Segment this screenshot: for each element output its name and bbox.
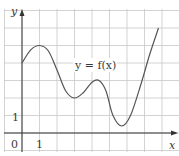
y-axis-arrow-icon <box>20 9 25 16</box>
x-axis-label: x <box>169 139 176 152</box>
grid-lines <box>4 9 179 152</box>
curve-label: y = f(x) <box>74 59 116 72</box>
x-tick-label-1: 1 <box>36 138 43 151</box>
function-curve <box>22 28 159 126</box>
function-graph: y x 0 1 1 y = f(x) <box>0 0 179 156</box>
y-tick-label-1: 1 <box>12 111 19 124</box>
y-axis-label: y <box>10 5 18 18</box>
origin-label: 0 <box>11 138 18 151</box>
x-axis-arrow-icon <box>171 131 178 136</box>
